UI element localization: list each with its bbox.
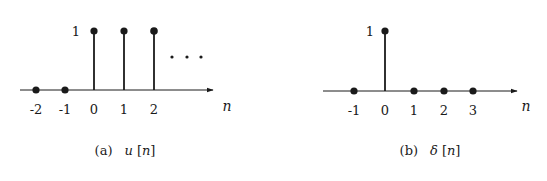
tick-label: 2 <box>150 102 158 117</box>
caption-bracket: ] <box>150 143 155 158</box>
value-label-one: 1 <box>366 24 374 39</box>
sample-point-n0 <box>381 27 388 34</box>
axis-label-n: n <box>222 98 231 114</box>
sample-point-n2 <box>440 87 447 94</box>
caption-tag: (b) <box>400 143 418 158</box>
tick-label: 0 <box>90 102 98 117</box>
caption-b: (b) δ [n] <box>400 141 461 158</box>
caption-var: n <box>447 143 455 158</box>
tick-label: 0 <box>381 103 389 118</box>
tick-label: 1 <box>410 103 418 118</box>
tick-label: 3 <box>469 103 477 118</box>
sample-point-n-1 <box>61 86 68 93</box>
sample-point-n-1 <box>350 87 357 94</box>
caption-var: n <box>142 143 150 158</box>
caption-a: (a) u [n] <box>95 141 156 158</box>
panel-unit-impulse: 1 -1 0 1 2 3 n (b) δ [n] <box>323 24 531 158</box>
value-label-one: 1 <box>72 24 80 39</box>
sample-point-n1 <box>120 27 127 34</box>
continuation-dot <box>185 55 188 58</box>
tick-label: -1 <box>59 102 72 117</box>
sample-point-n3 <box>469 87 476 94</box>
tick-label: 1 <box>120 102 128 117</box>
panel-unit-step: 1 -2 -1 0 1 2 n (a) u [n] <box>20 24 232 158</box>
tick-label: 2 <box>440 103 448 118</box>
sample-point-n1 <box>410 87 417 94</box>
sample-point-n0 <box>90 27 97 34</box>
continuation-dot <box>170 55 173 58</box>
sample-point-n-2 <box>32 86 39 93</box>
caption-function: u <box>125 143 133 158</box>
tick-label: -2 <box>30 102 43 117</box>
axis-label-n: n <box>521 98 530 114</box>
caption-function: δ <box>430 143 438 158</box>
tick-label: -1 <box>348 103 361 118</box>
sample-point-n2 <box>150 27 158 35</box>
caption-tag: (a) <box>95 143 113 158</box>
figure-canvas: 1 -2 -1 0 1 2 n (a) u [n] 1 -1 0 1 2 3 n <box>0 0 547 181</box>
continuation-dot <box>199 55 202 58</box>
caption-bracket: ] <box>455 143 460 158</box>
